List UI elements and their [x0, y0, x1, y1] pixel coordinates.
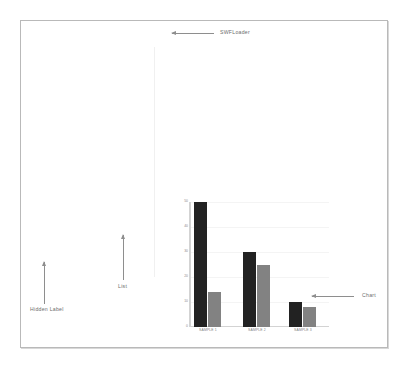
annotation-list: List — [112, 235, 152, 293]
x-axis-category-label: SAMPLE 1 — [186, 329, 230, 332]
bar[interactable] — [257, 265, 270, 328]
chart-component[interactable]: 01020304050 SAMPLE 1SAMPLE 2SAMPLE 3 — [176, 199, 331, 346]
arrow-left-icon — [172, 33, 214, 34]
annotation-swfloader: SWFLoader — [172, 28, 292, 40]
gridline — [191, 227, 329, 228]
x-axis-category-label: SAMPLE 2 — [235, 329, 279, 332]
y-axis-tick-label: 50 — [176, 200, 188, 203]
y-axis-tick-label: 30 — [176, 250, 188, 253]
annotation-label: SWFLoader — [220, 30, 250, 35]
gridline — [191, 252, 329, 253]
arrow-left-icon — [312, 296, 354, 297]
arrow-up-icon — [44, 262, 45, 304]
annotation-label: Chart — [362, 293, 376, 298]
gridline — [191, 202, 329, 203]
y-axis-tick-label: 40 — [176, 225, 188, 228]
bar[interactable] — [289, 302, 302, 327]
x-axis-category-label: SAMPLE 3 — [281, 329, 325, 332]
bar[interactable] — [303, 307, 316, 327]
y-axis-tick-label: 20 — [176, 275, 188, 278]
y-axis-tick-label: 10 — [176, 300, 188, 303]
y-axis-line — [189, 202, 191, 327]
bar[interactable] — [243, 252, 256, 327]
annotation-label: Hidden Label — [30, 307, 64, 312]
bar[interactable] — [194, 202, 207, 327]
annotation-label: List — [118, 284, 127, 289]
bar[interactable] — [208, 292, 221, 327]
annotation-hidden-label: Hidden Label — [30, 262, 100, 314]
arrow-up-icon — [123, 235, 124, 280]
annotation-chart: Chart — [312, 291, 402, 303]
y-axis-tick-label: 0 — [176, 325, 188, 328]
